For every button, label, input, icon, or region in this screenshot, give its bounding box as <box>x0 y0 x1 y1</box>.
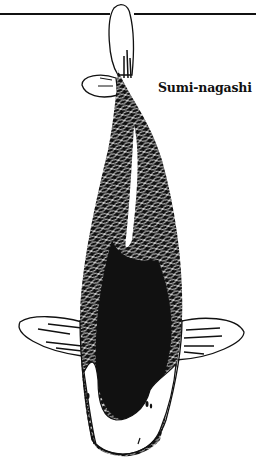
koi-illustration <box>0 0 256 469</box>
tail-fin <box>109 5 133 78</box>
dorsal-side-fin <box>82 75 118 97</box>
right-eye <box>146 401 149 407</box>
right-pectoral-fin <box>176 318 244 360</box>
left-pectoral-fin <box>19 317 82 356</box>
variety-label: Sumi-nagashi <box>158 80 252 95</box>
left-eye <box>87 393 90 399</box>
